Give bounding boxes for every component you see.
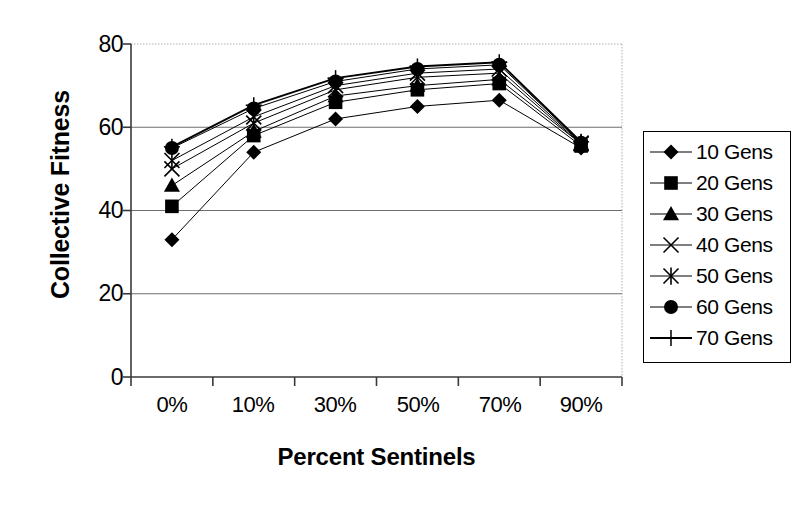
x-tick-10pct: 10% <box>208 392 298 418</box>
triangle-marker-icon <box>648 202 694 226</box>
y-axis-title: Collective Fitness <box>46 45 75 345</box>
legend-item-10-gens[interactable]: 10 Gens <box>648 136 790 167</box>
legend-label-20-gens: 20 Gens <box>694 172 773 193</box>
legend-label-70-gens: 70 Gens <box>694 327 773 348</box>
gridlines <box>131 44 622 377</box>
x-tick-label-10pct: 10% <box>208 392 298 418</box>
x-tick-label-50pct: 50% <box>373 392 463 418</box>
x-tick-50pct: 50% <box>373 392 463 418</box>
diamond-marker-icon <box>648 140 694 164</box>
legend-item-20-gens[interactable]: 20 Gens <box>648 167 790 198</box>
legend-item-30-gens[interactable]: 30 Gens <box>648 198 790 229</box>
legend-item-70-gens[interactable]: 70 Gens <box>648 322 790 353</box>
x-tick-0pct: 0% <box>127 392 217 418</box>
x-marker-icon <box>648 233 694 257</box>
x-tick-label-0pct: 0% <box>127 392 217 418</box>
legend-label-50-gens: 50 Gens <box>694 265 773 286</box>
x-tick-label-90pct: 90% <box>536 392 626 418</box>
square-marker-icon <box>648 171 694 195</box>
x-tick-70pct: 70% <box>455 392 545 418</box>
circle-marker-icon <box>648 295 694 319</box>
legend-item-50-gens[interactable]: 50 Gens <box>648 260 790 291</box>
star-marker-icon <box>648 264 694 288</box>
axis-lines <box>123 44 622 386</box>
series-10-gens <box>164 93 588 247</box>
legend-label-10-gens: 10 Gens <box>694 141 773 162</box>
x-tick-label-70pct: 70% <box>455 392 545 418</box>
legend-label-30-gens: 30 Gens <box>694 203 773 224</box>
y-tick-label-0: 0 <box>63 366 123 389</box>
legend-label-40-gens: 40 Gens <box>694 234 773 255</box>
x-tick-90pct: 90% <box>536 392 626 418</box>
legend-label-60-gens: 60 Gens <box>694 296 773 317</box>
series-20-gens <box>165 77 588 213</box>
plus-marker-icon <box>648 326 694 350</box>
data-series-layer <box>164 54 589 247</box>
y-tick-0: 0 <box>57 366 123 389</box>
legend-item-40-gens[interactable]: 40 Gens <box>648 229 790 260</box>
chart-figure: 80 60 40 20 0 0% 10% 30% 50% 70% 90% Col… <box>0 0 806 511</box>
x-tick-30pct: 30% <box>290 392 380 418</box>
legend-item-60-gens[interactable]: 60 Gens <box>648 291 790 322</box>
x-axis-title: Percent Sentinels <box>131 443 622 471</box>
series-70-gens <box>164 54 589 154</box>
x-tick-label-30pct: 30% <box>290 392 380 418</box>
legend: 10 Gens 20 Gens 30 Gens 40 Gens 50 Gens … <box>643 131 791 363</box>
